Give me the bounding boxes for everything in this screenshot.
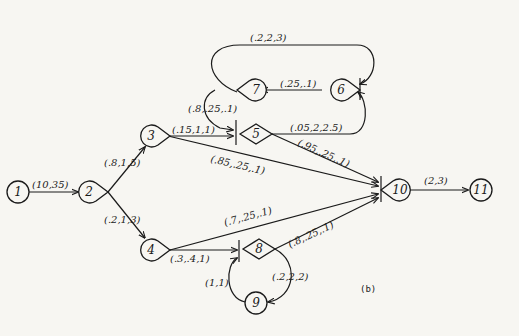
svg-text:5: 5: [252, 127, 260, 141]
svg-text:9: 9: [252, 296, 260, 310]
svg-text:10: 10: [392, 183, 408, 197]
network-diagram: 1 2 3 4 5 6 7 8 9 10 11 (10,35) (.8,1,5: [0, 0, 519, 336]
node-6: 6: [331, 79, 360, 101]
edge-label-5-6: (.05,2,2.5): [290, 122, 342, 133]
svg-text:7: 7: [252, 83, 260, 97]
edge-2-3: [108, 147, 145, 192]
node-1: 1: [7, 181, 29, 203]
node-11: 11: [470, 179, 492, 201]
svg-text:8: 8: [255, 242, 263, 256]
figure-caption: (b): [360, 284, 376, 294]
node-7: 7: [237, 79, 266, 101]
node-3: 3: [141, 125, 170, 147]
edge-9-8: [229, 258, 245, 302]
edge-label-3-5: (.15,1,1): [172, 124, 215, 135]
svg-text:6: 6: [337, 83, 345, 97]
svg-text:11: 11: [473, 183, 488, 197]
svg-text:2: 2: [84, 185, 93, 199]
node-10: 10: [381, 179, 410, 201]
edge-label-8-9: (.2,2,2): [272, 271, 309, 282]
edge-label-4-8: (.3,.4,1): [170, 253, 210, 264]
edge-label-10-11: (2,3): [424, 175, 448, 186]
edge-4-10: [170, 194, 378, 250]
edge-label-7-6: (.2,2,3): [250, 32, 287, 43]
edge-label-5-10: (.95,.25,.1): [296, 137, 351, 170]
node-9: 9: [245, 292, 267, 314]
node-5: 5: [240, 124, 272, 144]
edge-label-8-10: (.8,.25,.1): [286, 219, 335, 250]
edge-label-2-3: (.8,1,5): [104, 157, 141, 168]
edge-label-6-7: (.25,.1): [280, 78, 317, 89]
node-4: 4: [141, 239, 170, 261]
edge-label-2-4: (.2,1,3): [104, 214, 141, 225]
svg-text:1: 1: [14, 185, 22, 199]
edge-label-7-5: (.8,.25,.1): [188, 103, 237, 114]
node-8: 8: [243, 239, 275, 259]
svg-text:3: 3: [147, 129, 155, 143]
edge-label-1-2: (10,35): [32, 179, 69, 190]
node-2: 2: [79, 181, 108, 203]
svg-text:4: 4: [146, 243, 155, 257]
edge-label-9-8: (1,1): [205, 277, 229, 288]
edge-label-3-10: (.85,.25,.1): [210, 153, 267, 176]
